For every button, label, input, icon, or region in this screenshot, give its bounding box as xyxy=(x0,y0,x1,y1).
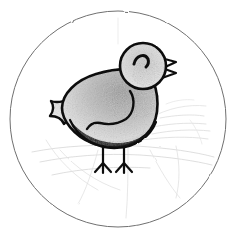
bird-sketch-illustration xyxy=(0,0,236,235)
artwork-canvas: Pencil sketch of a small bird in a circu… xyxy=(0,0,236,235)
